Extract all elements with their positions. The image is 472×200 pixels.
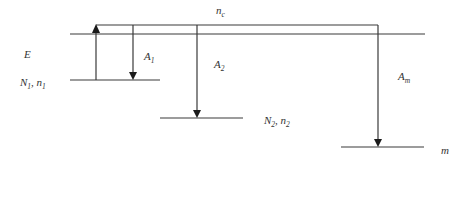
- level-m-label: m: [441, 144, 449, 156]
- continuum-label: nc: [216, 4, 226, 19]
- am-label: Am: [397, 70, 411, 85]
- arrow-down-icon: [193, 110, 201, 118]
- a2-transition-arrow: [193, 25, 201, 118]
- excitation-arrow: [92, 24, 100, 80]
- arrow-down-icon: [374, 139, 382, 147]
- am-transition-arrow: [374, 25, 382, 147]
- level-2-label: N2, n2: [263, 114, 290, 129]
- a1-label: A1: [143, 50, 154, 65]
- energy-label: E: [23, 48, 31, 60]
- level-1-label: N1, n1: [19, 76, 46, 91]
- a1-transition-arrow: [129, 25, 137, 80]
- energy-level-diagram: nc E N1, n1 A1 A2 Am: [0, 0, 472, 200]
- arrow-down-icon: [129, 72, 137, 80]
- a2-label: A2: [213, 58, 225, 73]
